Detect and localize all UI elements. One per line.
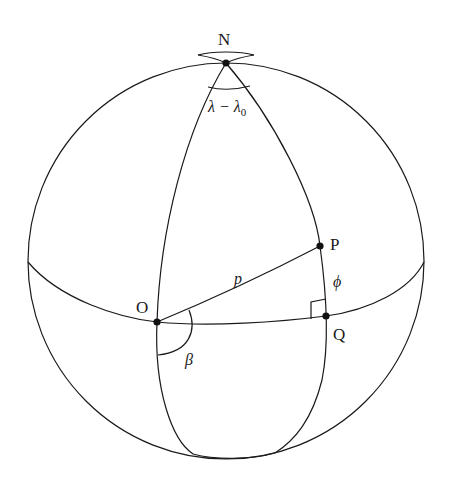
point-P [316,242,323,249]
point-Q [322,312,329,319]
point-O [153,318,160,325]
equator-arc [28,262,424,324]
angle-arc-lambda [208,86,250,89]
point-N [222,59,229,66]
label-Q: Q [333,325,345,344]
label-p: p [233,270,242,288]
meridian-through-O [157,63,226,454]
top-cap-arc [198,52,254,55]
label-O: O [136,298,148,317]
angle-arc-beta [158,310,192,355]
lambda-subscript: 0 [241,106,247,118]
sphere-outline [28,63,424,459]
meridian-through-P-Q [226,63,326,453]
label-N: N [218,30,230,49]
diagram-canvas: N P O Q p ϕ β λ − λ0 [0,0,449,483]
label-P: P [330,235,339,254]
label-phi: ϕ [333,273,341,291]
label-lambda-diff: λ − λ0 [207,98,247,118]
sphere-diagram: N P O Q p ϕ β λ − λ0 [0,0,449,483]
lambda-text: λ − λ [207,98,241,115]
label-beta: β [184,351,193,369]
